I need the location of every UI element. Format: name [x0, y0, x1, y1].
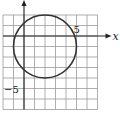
y-axis-arrow-icon [22, 0, 27, 6]
circle-graph: x 5 −5 [0, 0, 119, 114]
x-axis-arrow-icon [106, 34, 112, 39]
x-axis-label: x [113, 30, 120, 43]
y-tick-label-neg5: −5 [4, 84, 19, 95]
axes [3, 0, 112, 110]
x-tick-label-5: 5 [74, 24, 80, 35]
